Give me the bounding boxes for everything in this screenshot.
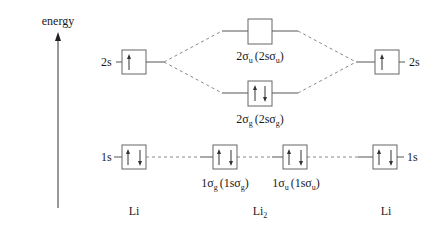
column-label-li-left: Li xyxy=(129,204,140,218)
energy-axis: energy xyxy=(42,14,74,208)
orbital-1sigma-g: 1σg(1sσg) xyxy=(200,145,249,192)
orbital-label: 2s xyxy=(101,55,112,69)
orbital-label: 1σu(1sσu) xyxy=(272,176,320,192)
orbital-1sigma-u: 1σu(1sσu) xyxy=(272,145,320,192)
orbital-right-2s: 2s xyxy=(356,50,420,74)
orbital-right-1s: 1s xyxy=(358,145,418,169)
orbital-label: 1s xyxy=(101,150,112,164)
orbital-2sigma-u: 2σu(2sσu) xyxy=(222,19,298,65)
axis-label: energy xyxy=(42,14,74,28)
arrow-up-icon xyxy=(55,32,61,41)
column-label-li2: Li2 xyxy=(253,204,268,220)
mo-diagram: energy 2s 2s 2σu(2sσu) xyxy=(0,0,446,230)
orbital-label: 1s xyxy=(407,150,418,164)
orbital-left-1s: 1s xyxy=(101,145,146,169)
orbital-left-2s: 2s xyxy=(101,50,164,74)
orbital-label: 2s xyxy=(409,55,420,69)
orbital-label: 2σg(2sσg) xyxy=(236,112,284,128)
orbital-label: 2σu(2sσu) xyxy=(236,49,284,65)
orbital-label: 1σg(1sσg) xyxy=(201,176,249,192)
orbital-2sigma-g: 2σg(2sσg) xyxy=(222,81,298,128)
column-label-li-right: Li xyxy=(381,204,392,218)
